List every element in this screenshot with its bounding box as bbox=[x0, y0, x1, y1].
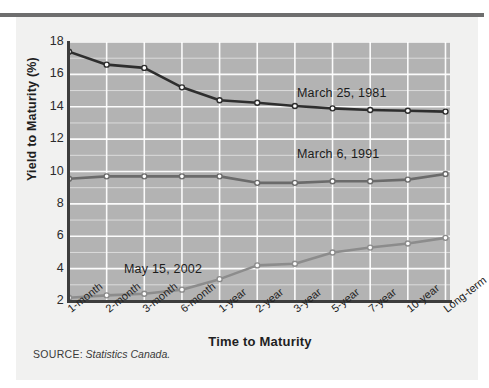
data-point-marker bbox=[217, 277, 222, 282]
y-axis-tick-labels: 18161412108642 bbox=[36, 42, 64, 301]
data-point-marker bbox=[330, 250, 335, 255]
data-point-marker bbox=[292, 103, 297, 108]
data-point-marker bbox=[255, 263, 260, 268]
data-point-marker bbox=[104, 293, 109, 298]
data-point-marker bbox=[443, 171, 448, 176]
data-point-marker bbox=[104, 62, 109, 67]
data-point-marker bbox=[292, 261, 297, 266]
data-point-marker bbox=[217, 174, 222, 179]
data-point-marker bbox=[142, 65, 147, 70]
data-point-marker bbox=[368, 179, 373, 184]
data-point-marker bbox=[255, 100, 260, 105]
data-point-marker bbox=[405, 177, 410, 182]
y-axis-tick-label: 18 bbox=[38, 34, 64, 48]
data-point-marker bbox=[255, 180, 260, 185]
y-axis-tick-label: 6 bbox=[38, 228, 64, 242]
y-axis-tick-label: 2 bbox=[38, 293, 64, 307]
y-axis-line bbox=[67, 41, 70, 302]
data-point-marker bbox=[292, 180, 297, 185]
data-point-marker bbox=[142, 291, 147, 296]
data-point-marker bbox=[405, 241, 410, 246]
data-point-marker bbox=[443, 235, 448, 240]
series-label-2002: May 15, 2002 bbox=[124, 262, 202, 276]
data-point-marker bbox=[142, 174, 147, 179]
source-label: SOURCE: bbox=[33, 348, 83, 360]
data-point-marker bbox=[330, 106, 335, 111]
data-point-marker bbox=[217, 98, 222, 103]
data-point-marker bbox=[179, 287, 184, 292]
x-axis-title: Time to Maturity bbox=[160, 334, 360, 349]
y-axis-tick-label: 14 bbox=[38, 99, 64, 113]
data-point-marker bbox=[179, 85, 184, 90]
source-note: SOURCE: Statistics Canada. bbox=[33, 348, 170, 360]
y-axis-tick-label: 4 bbox=[38, 261, 64, 275]
series-1 bbox=[69, 171, 448, 185]
data-point-marker bbox=[179, 174, 184, 179]
series-label-1991: March 6, 1991 bbox=[297, 147, 380, 161]
data-point-marker bbox=[368, 107, 373, 112]
series-0 bbox=[69, 49, 448, 114]
y-axis-tick-label: 10 bbox=[38, 164, 64, 178]
source-value: Statistics Canada. bbox=[86, 348, 171, 360]
data-point-marker bbox=[104, 174, 109, 179]
data-point-marker bbox=[368, 245, 373, 250]
data-point-marker bbox=[405, 108, 410, 113]
y-axis-tick-label: 8 bbox=[38, 196, 64, 210]
data-point-marker bbox=[330, 179, 335, 184]
y-axis-tick-label: 12 bbox=[38, 131, 64, 145]
series-label-1981: March 25, 1981 bbox=[297, 86, 387, 100]
data-point-marker bbox=[443, 109, 448, 114]
y-axis-tick-label: 16 bbox=[38, 66, 64, 80]
